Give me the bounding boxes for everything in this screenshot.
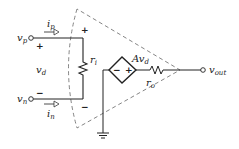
- vout-terminal: [201, 68, 206, 73]
- vp-label: vp: [17, 32, 28, 45]
- ri-minus-sign: −: [81, 102, 89, 112]
- in-label: in: [47, 108, 55, 121]
- in-arrow-icon: [44, 101, 59, 107]
- vp-terminal: [29, 36, 34, 41]
- ro-resistor: [136, 66, 201, 74]
- ground-icon: [97, 133, 109, 138]
- vn-terminal: [29, 97, 34, 102]
- gain-label: Avd: [131, 53, 149, 66]
- ro-label: ro: [146, 77, 155, 90]
- input-minus-sign: −: [36, 88, 44, 98]
- ip-label: ip: [47, 18, 55, 31]
- input-plus-sign: +: [36, 41, 44, 51]
- source-minus-sign: −: [113, 65, 121, 75]
- ri-resistor: [79, 38, 87, 99]
- vn-label: vn: [17, 93, 28, 106]
- vout-label: vout: [209, 64, 226, 77]
- source-plus-sign: +: [125, 65, 133, 75]
- ri-plus-sign: +: [81, 25, 89, 35]
- ri-label: ri: [90, 54, 97, 67]
- op-amp-model-diagram: − + + − + − vp vn ip in vd ri ro Avd vou…: [0, 0, 239, 149]
- vd-label: vd: [36, 64, 47, 77]
